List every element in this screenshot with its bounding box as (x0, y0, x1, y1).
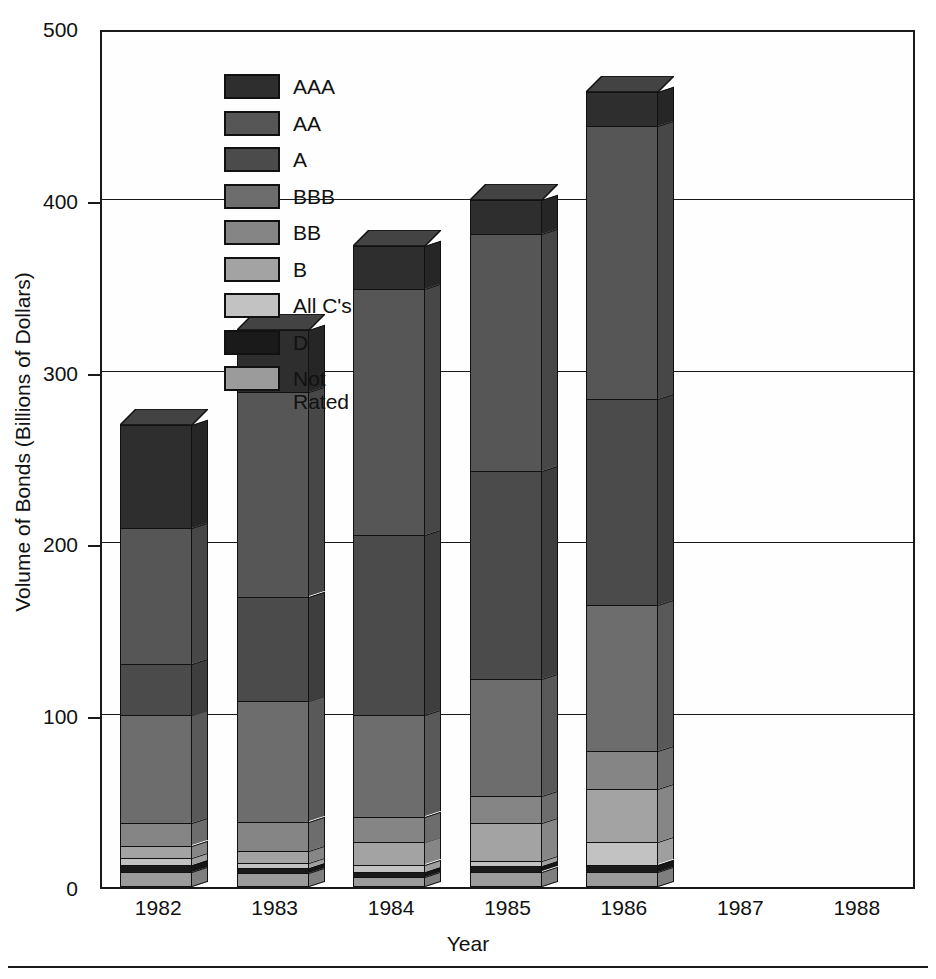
bar-side-1986-b (658, 784, 674, 842)
bar-segment-1983-b[interactable] (237, 851, 309, 863)
bar-segment-1983-notrated[interactable] (237, 873, 309, 887)
legend-swatch-icon (224, 147, 280, 172)
legend-item-bbb[interactable]: BBB (224, 184, 414, 212)
y-tick-label-400: 400 (20, 191, 78, 212)
bar-side-1986-bbb (658, 600, 674, 751)
legend-label: D (293, 330, 308, 354)
bar-side-1984-aaa (425, 241, 441, 289)
legend-label: BB (293, 220, 321, 244)
legend-item-b[interactable]: B (224, 257, 414, 285)
legend-swatch-icon (224, 366, 280, 391)
bar-side-1985-bb (542, 791, 558, 824)
bar-segment-1986-bb[interactable] (586, 751, 658, 789)
bar-segment-1985-allcs[interactable] (470, 861, 542, 866)
x-tick-label-1985: 1985 (448, 896, 568, 920)
x-tick-label-1982: 1982 (98, 896, 218, 920)
bar-segment-1985-b[interactable] (470, 823, 542, 861)
bar-side-1984-bbb (425, 710, 441, 817)
bar-segment-1982-aa[interactable] (120, 528, 192, 664)
bar-segment-1983-allcs[interactable] (237, 863, 309, 868)
bar-column-1986 (586, 92, 658, 887)
y-tick-label-200: 200 (20, 534, 78, 555)
bar-side-1982-aaa (192, 420, 208, 528)
legend-swatch-icon (224, 184, 280, 209)
legend-item-a[interactable]: A (224, 147, 414, 175)
bar-segment-1983-d[interactable] (237, 868, 309, 873)
bar-top-face-1985 (470, 184, 558, 200)
y-tick-label-0: 0 (20, 878, 78, 899)
bar-top-face-1982 (120, 409, 208, 425)
bar-side-1982-aa (192, 523, 208, 664)
legend-swatch-icon (224, 74, 280, 99)
legend-item-allcs[interactable]: All C's (224, 293, 414, 321)
x-tick-label-1984: 1984 (331, 896, 451, 920)
x-tick-label-1986: 1986 (564, 896, 684, 920)
bar-segment-1982-bbb[interactable] (120, 715, 192, 823)
y-tick-label-100: 100 (20, 706, 78, 727)
bar-segment-1983-bbb[interactable] (237, 701, 309, 821)
legend-swatch-icon (224, 330, 280, 355)
bar-segment-1986-aaa[interactable] (586, 92, 658, 126)
bar-segment-1985-notrated[interactable] (470, 872, 542, 887)
bar-segment-1985-d[interactable] (470, 866, 542, 871)
bar-segment-1983-aa[interactable] (237, 392, 309, 596)
legend-item-aaa[interactable]: AAA (224, 74, 414, 102)
bar-segment-1985-aaa[interactable] (470, 200, 542, 234)
legend-swatch-icon (224, 293, 280, 318)
bond-volume-stacked-bar-chart: Volume of Bonds (Billions of Dollars) 01… (0, 0, 936, 979)
bar-column-1983 (237, 330, 309, 887)
bar-1986[interactable] (586, 92, 658, 887)
bar-segment-1984-bb[interactable] (353, 817, 425, 843)
bar-segment-1982-notrated[interactable] (120, 872, 192, 887)
x-tick-label-1987: 1987 (680, 896, 800, 920)
bar-segment-1983-bb[interactable] (237, 822, 309, 851)
legend-item-d[interactable]: D (224, 330, 414, 358)
bar-segment-1982-a[interactable] (120, 664, 192, 716)
bar-1985[interactable] (470, 200, 542, 887)
bar-segment-1982-allcs[interactable] (120, 858, 192, 865)
bar-segment-1985-aa[interactable] (470, 234, 542, 471)
bar-side-1983-bbb (309, 696, 325, 821)
bar-side-1985-aaa (542, 195, 558, 235)
bar-segment-1986-aa[interactable] (586, 126, 658, 399)
legend-item-aa[interactable]: AA (224, 111, 414, 139)
bar-segment-1984-allcs[interactable] (353, 865, 425, 872)
bar-segment-1984-b[interactable] (353, 842, 425, 864)
bar-segment-1982-d[interactable] (120, 865, 192, 872)
bar-segment-1986-allcs[interactable] (586, 842, 658, 864)
legend-item-bb[interactable]: BB (224, 220, 414, 248)
bar-segment-1985-bbb[interactable] (470, 679, 542, 796)
bar-segment-1982-bb[interactable] (120, 823, 192, 845)
bar-segment-1986-b[interactable] (586, 789, 658, 842)
bar-1982[interactable] (120, 425, 192, 887)
bar-segment-1984-notrated[interactable] (353, 877, 425, 887)
bar-side-1986-aa (658, 121, 674, 399)
bar-side-1985-bbb (542, 674, 558, 796)
bar-segment-1985-a[interactable] (470, 471, 542, 679)
bar-segment-1986-d[interactable] (586, 865, 658, 872)
bar-segment-1986-a[interactable] (586, 399, 658, 605)
legend-label: AAA (293, 74, 335, 98)
legend-label: BBB (293, 184, 335, 208)
bar-segment-1984-a[interactable] (353, 535, 425, 715)
y-tick-label-500: 500 (20, 19, 78, 40)
legend-item-notrated[interactable]: Not Rated (224, 366, 414, 394)
bar-segment-1982-aaa[interactable] (120, 425, 192, 528)
legend-label: A (293, 147, 307, 171)
bar-side-1983-bb (309, 817, 325, 851)
legend-label: B (293, 257, 307, 281)
x-axis-title: Year (0, 932, 936, 956)
bar-segment-1982-b[interactable] (120, 846, 192, 858)
bar-1983[interactable] (237, 330, 309, 887)
bar-side-1986-bb (658, 746, 674, 789)
bar-segment-1984-d[interactable] (353, 872, 425, 877)
bar-segment-1986-notrated[interactable] (586, 872, 658, 887)
bar-segment-1984-bbb[interactable] (353, 715, 425, 816)
chart-legend: AAAAAABBBBBBAll C'sDNot Rated (224, 74, 414, 403)
legend-swatch-icon (224, 111, 280, 136)
bar-segment-1985-bb[interactable] (470, 796, 542, 823)
bar-segment-1986-bbb[interactable] (586, 605, 658, 751)
bar-side-1985-aa (542, 229, 558, 471)
bar-side-1983-a (309, 591, 325, 701)
bar-segment-1983-a[interactable] (237, 597, 309, 702)
